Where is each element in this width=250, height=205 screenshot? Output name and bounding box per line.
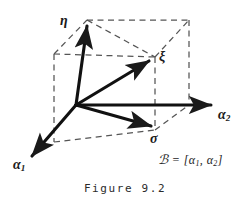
vector-eta-arrow [76,26,87,105]
alpha2-subscript: 2 [226,113,231,123]
vector-arrows [32,26,211,156]
vector-diagram-canvas [0,0,250,205]
vector-alpha1-arrow [32,105,76,156]
axis-label-sigma: σ [150,132,158,146]
axis-label-alpha1: α1 [13,158,25,174]
box-edge-bottom-right [155,105,189,130]
figure-9-2: η ξ σ α2 α1 ℬ = [α1, α2] Figure 9.2 [0,0,250,205]
axis-label-xi: ξ [159,50,165,64]
vector-sigma-arrow [76,105,151,126]
vector-xi-arrow [76,61,149,105]
box-edge-top-left [54,20,87,54]
origin-point [74,103,77,106]
equation-comma: , [200,153,207,167]
box-edge-top-front [54,54,155,57]
box-edge-bottom-front [54,130,155,142]
alpha1-base: α [13,157,21,172]
axis-label-eta: η [60,14,68,28]
alpha2-base: α [218,107,226,122]
script-s-symbol: ℬ [158,152,168,167]
figure-caption: Figure 9.2 [0,182,250,195]
dashed-box-frame [54,20,189,142]
alpha1-subscript: 1 [21,163,26,173]
set-definition-equation: ℬ = [α1, α2] [158,152,223,168]
equation-equals-open: = [ [168,153,188,167]
box-edge-top-diagonal [87,20,155,57]
equation-close-bracket: ] [218,153,223,167]
axis-label-alpha2: α2 [218,108,230,124]
